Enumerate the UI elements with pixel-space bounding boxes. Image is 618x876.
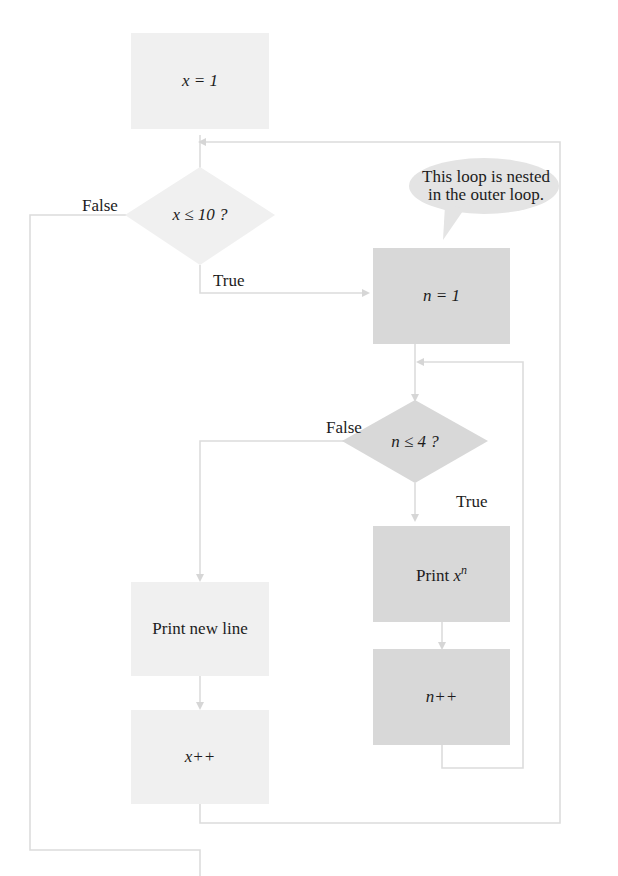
- init-n-box: n = 1: [373, 248, 510, 344]
- cond-n-text: n ≤ 4 ?: [391, 432, 439, 452]
- print-base: x: [453, 565, 461, 584]
- print-xn-box: Print xn: [373, 526, 510, 622]
- init-n-text: n = 1: [423, 286, 460, 306]
- outer-true-label: True: [213, 271, 245, 291]
- nested-loop-callout: This loop is nested in the outer loop.: [396, 168, 576, 204]
- callout-line-1: This loop is nested: [396, 168, 576, 186]
- init-x-text: x = 1: [182, 71, 218, 91]
- cond-n-diamond: n ≤ 4 ?: [355, 427, 475, 457]
- print-newline-text: Print new line: [152, 619, 247, 639]
- inner-true-label: True: [456, 492, 488, 512]
- cond-x-diamond: x ≤ 10 ?: [135, 200, 265, 230]
- print-xn-text: Print xn: [416, 563, 467, 586]
- inc-n-text: n++: [426, 687, 457, 707]
- print-newline-box: Print new line: [131, 582, 269, 676]
- outer-false-label: False: [82, 196, 118, 216]
- init-x-box: x = 1: [131, 33, 269, 129]
- inc-x-text: x++: [185, 747, 216, 767]
- callout-line-2: in the outer loop.: [396, 186, 576, 204]
- inner-false-label: False: [326, 418, 362, 438]
- connector-lines: [0, 0, 618, 876]
- cond-x-text: x ≤ 10 ?: [172, 205, 227, 225]
- print-exponent: n: [461, 563, 467, 577]
- inc-n-box: n++: [373, 649, 510, 745]
- inc-x-box: x++: [131, 710, 269, 804]
- print-prefix: Print: [416, 565, 453, 584]
